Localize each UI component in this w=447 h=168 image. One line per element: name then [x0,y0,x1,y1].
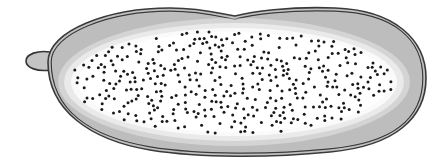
nucleus [307,51,310,54]
nucleus [344,48,347,51]
nucleus [295,44,298,47]
nucleus [247,113,250,116]
nucleus [304,91,307,94]
nucleus [172,41,175,44]
nucleus [327,69,330,72]
nucleus [383,72,386,75]
nucleus [251,72,254,75]
nucleus [254,98,257,101]
nucleus [291,37,294,40]
nucleus [85,77,88,80]
nucleus [340,110,343,113]
nucleus [234,107,237,110]
nucleus [321,70,324,73]
nucleus [269,64,272,67]
nucleus [172,108,175,111]
nucleus [251,131,254,134]
nucleus [174,68,177,71]
nucleus [125,89,128,92]
nucleus [317,39,320,42]
nucleus [162,74,165,77]
nucleus [91,97,94,100]
nucleus [105,89,108,92]
nucleus [150,99,153,102]
nucleus [304,122,307,125]
nucleus [159,90,162,93]
nucleus [296,97,299,100]
nucleus [214,36,217,39]
nucleus [199,51,202,54]
nucleus [153,69,156,72]
nucleus [371,66,374,69]
nucleus [116,55,119,58]
nucleus [192,42,195,45]
nucleus [301,97,304,100]
nucleus [337,106,340,109]
nucleus [205,41,208,44]
nucleus [310,40,313,43]
nucleus [269,89,272,92]
nucleus [199,72,202,75]
nucleus [203,37,206,40]
nucleus [143,120,146,123]
nucleus [260,121,263,124]
nucleus [186,111,189,114]
nucleus [323,114,326,117]
nucleus [178,80,181,83]
nucleus [261,66,264,69]
nucleus [214,79,217,82]
nucleus [280,130,283,133]
nucleus [261,78,264,81]
nucleus [286,37,289,40]
nucleus [126,55,129,58]
nucleus [133,76,136,79]
nucleus [83,86,86,89]
nucleus [349,93,352,96]
nucleus [170,96,173,99]
nucleus [204,115,207,118]
nucleus [243,48,246,51]
nucleus [367,66,370,69]
nucleus [206,131,209,134]
nucleus [345,56,348,59]
nucleus [367,87,370,90]
nucleus [169,69,172,72]
nucleus [239,130,242,133]
nucleus [318,105,321,108]
nucleus [253,55,256,58]
nucleus [302,82,305,85]
nucleus [219,83,222,86]
nucleus [357,111,360,114]
nucleus [149,77,152,80]
nucleus [76,81,79,84]
nucleus [346,74,349,77]
nucleus [181,57,184,60]
nucleus [220,50,223,53]
nucleus [280,60,283,63]
nucleus [151,58,154,61]
nucleus [259,37,262,40]
nucleus [272,111,275,114]
nucleus [198,84,201,87]
nucleus [324,76,327,79]
nucleus [331,86,334,89]
nucleus [233,65,236,68]
nucleus [298,57,301,60]
nucleus [183,125,186,128]
nucleus [160,95,163,98]
nucleus [318,66,321,69]
nucleus [376,73,379,76]
nucleus [134,45,137,48]
nucleus [154,82,157,85]
nucleus [210,35,213,38]
nucleus [224,58,227,61]
nucleus [101,102,104,105]
nucleus [332,40,335,43]
nucleus [214,132,217,135]
nucleus [177,103,180,106]
nucleus [323,41,326,44]
nucleus [161,120,164,123]
nucleus [175,48,178,51]
nucleus [360,51,363,54]
nucleus [214,44,217,47]
